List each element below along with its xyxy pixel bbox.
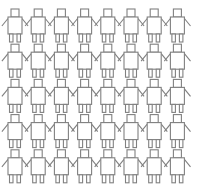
doll-arm-left — [48, 19, 54, 27]
doll-leg-left — [79, 34, 83, 42]
doll-head — [104, 150, 112, 158]
doll-head — [81, 115, 89, 123]
doll-head — [127, 115, 135, 123]
doll-head — [11, 79, 19, 87]
doll-body — [8, 87, 22, 104]
doll-body — [147, 123, 161, 140]
doll-leg-left — [102, 104, 106, 112]
doll-arm-left — [118, 89, 124, 97]
doll-leg-right — [87, 69, 91, 77]
doll-leg-left — [10, 104, 14, 112]
doll-body — [147, 17, 161, 34]
doll-arm-left — [118, 159, 124, 167]
doll-figure — [72, 79, 98, 112]
doll-head — [57, 115, 65, 123]
doll-leg-right — [156, 140, 160, 148]
doll-arm-right — [22, 54, 28, 62]
doll-figure — [164, 79, 190, 112]
doll-arm-right — [138, 19, 144, 27]
doll-leg-right — [87, 140, 91, 148]
doll-figure — [2, 79, 28, 112]
doll-leg-right — [63, 175, 67, 183]
doll-arm-left — [2, 124, 8, 132]
doll-arm-right — [161, 54, 167, 62]
doll-figure-highlighted — [118, 44, 144, 77]
doll-body — [101, 123, 115, 140]
doll-leg-right — [40, 34, 44, 42]
doll-leg-right — [17, 140, 21, 148]
doll-figure-highlighted — [2, 150, 28, 183]
doll-arm-left — [72, 124, 78, 132]
doll-figure — [48, 150, 74, 183]
doll-arm-right — [115, 159, 121, 167]
doll-head — [34, 79, 42, 87]
doll-leg-right — [17, 175, 21, 183]
doll-leg-left — [172, 69, 176, 77]
doll-arm-right — [92, 54, 98, 62]
doll-arm-left — [95, 54, 101, 62]
doll-arm-left — [48, 124, 54, 132]
doll-figure — [2, 44, 28, 77]
doll-figure — [95, 150, 121, 183]
doll-figure — [118, 9, 144, 42]
doll-head — [81, 79, 89, 87]
doll-arm-right — [138, 89, 144, 97]
doll-arm-left — [48, 159, 54, 167]
doll-arm-right — [22, 19, 28, 27]
doll-arm-left — [95, 19, 101, 27]
doll-leg-right — [87, 104, 91, 112]
doll-figure — [164, 44, 190, 77]
doll-head — [173, 150, 181, 158]
doll-figure — [25, 150, 51, 183]
doll-body — [54, 87, 68, 104]
doll-body — [31, 52, 45, 69]
doll-leg-left — [126, 104, 130, 112]
doll-body — [78, 158, 92, 175]
doll-leg-left — [79, 104, 83, 112]
doll-figure — [72, 9, 98, 42]
doll-figure — [72, 115, 98, 148]
doll-arm-left — [72, 89, 78, 97]
doll-arm-left — [48, 54, 54, 62]
doll-body — [8, 52, 22, 69]
doll-leg-left — [149, 69, 153, 77]
doll-arm-left — [2, 54, 8, 62]
doll-leg-right — [63, 104, 67, 112]
doll-body — [78, 17, 92, 34]
doll-leg-left — [56, 69, 60, 77]
doll-leg-right — [40, 140, 44, 148]
doll-head — [104, 115, 112, 123]
doll-arm-right — [92, 159, 98, 167]
doll-head — [81, 44, 89, 52]
doll-body — [8, 17, 22, 34]
doll-figure — [25, 44, 51, 77]
doll-arm-left — [164, 124, 170, 132]
doll-leg-right — [17, 69, 21, 77]
doll-arm-right — [115, 89, 121, 97]
doll-body — [147, 87, 161, 104]
doll-head — [81, 9, 89, 17]
doll-body — [31, 87, 45, 104]
doll-figure — [2, 115, 28, 148]
doll-leg-right — [133, 175, 137, 183]
doll-arm-left — [118, 19, 124, 27]
doll-arm-left — [25, 19, 31, 27]
doll-leg-left — [10, 140, 14, 148]
doll-arm-left — [95, 89, 101, 97]
doll-leg-left — [56, 140, 60, 148]
doll-leg-left — [172, 104, 176, 112]
doll-leg-left — [79, 175, 83, 183]
doll-arm-right — [161, 159, 167, 167]
doll-leg-left — [33, 69, 37, 77]
doll-arm-right — [184, 89, 190, 97]
doll-head — [104, 9, 112, 17]
doll-arm-right — [184, 159, 190, 167]
doll-head — [150, 115, 158, 123]
doll-leg-right — [110, 34, 114, 42]
doll-figure — [95, 44, 121, 77]
doll-head — [104, 79, 112, 87]
doll-body — [54, 123, 68, 140]
doll-grid-svg — [0, 0, 201, 193]
doll-leg-right — [17, 104, 21, 112]
doll-arm-left — [164, 89, 170, 97]
